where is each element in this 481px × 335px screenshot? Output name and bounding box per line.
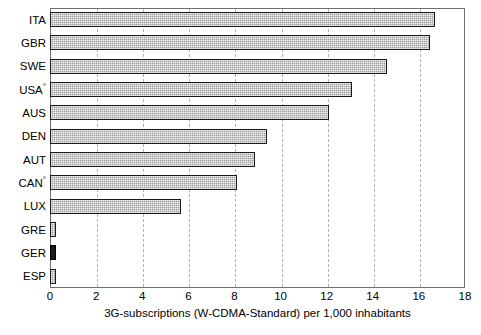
y-axis-label-esp: ESP: [0, 270, 46, 282]
bar-row: [50, 125, 465, 148]
bar-gbr: [50, 35, 430, 50]
x-tick-label-10: 10: [274, 290, 287, 303]
y-axis-label-aus: AUS: [0, 107, 46, 119]
bar-row: [50, 101, 465, 124]
bar-ger: [50, 245, 56, 260]
bar-row: [50, 55, 465, 78]
x-tick-label-0: 0: [47, 290, 53, 303]
bar-esp: [50, 269, 56, 284]
page-bottom-text-fragment: [14, 329, 314, 335]
y-axis-label-den: DEN: [0, 130, 46, 142]
x-tick-label-8: 8: [231, 290, 237, 303]
y-axis-label-gre: GRE: [0, 224, 46, 236]
x-tick-label-14: 14: [366, 290, 379, 303]
x-tick-label-4: 4: [139, 290, 145, 303]
bar-row: [50, 195, 465, 218]
chart-container: ITAGBRSWEUSA°AUSDENAUTCAN°LUXGREGERESP 0…: [0, 0, 481, 335]
bar-row: [50, 8, 465, 31]
y-axis-label-swe: SWE: [0, 60, 46, 72]
x-tick-label-12: 12: [320, 290, 333, 303]
bar-row: [50, 31, 465, 54]
x-tick-label-16: 16: [412, 290, 425, 303]
y-axis-label-ita: ITA: [0, 14, 46, 26]
bar-swe: [50, 59, 387, 74]
bar-row: [50, 218, 465, 241]
bar-row: [50, 241, 465, 264]
y-axis-label-ger: GER: [0, 247, 46, 259]
bar-row: [50, 78, 465, 101]
bar-ita: [50, 12, 435, 27]
bar-gre: [50, 222, 56, 237]
y-axis-label-gbr: GBR: [0, 37, 46, 49]
bars-group: [50, 8, 465, 288]
x-tick-label-18: 18: [459, 290, 472, 303]
y-axis-label-can: CAN°: [0, 177, 46, 189]
bar-lux: [50, 199, 181, 214]
bar-den: [50, 129, 267, 144]
y-axis-label-aut: AUT: [0, 154, 46, 166]
y-axis-category-labels: ITAGBRSWEUSA°AUSDENAUTCAN°LUXGREGERESP: [0, 8, 46, 288]
bar-aut: [50, 152, 255, 167]
bar-row: [50, 148, 465, 171]
x-axis-tick-labels: 024681012141618: [50, 290, 465, 306]
bar-row: [50, 171, 465, 194]
y-axis-label-usa: USA°: [0, 84, 46, 96]
x-axis-title: 3G-subscriptions (W-CDMA-Standard) per 1…: [50, 307, 465, 320]
bar-can: [50, 175, 237, 190]
x-tick-label-6: 6: [185, 290, 191, 303]
bar-usa: [50, 82, 352, 97]
y-axis-label-lux: LUX: [0, 200, 46, 212]
bar-row: [50, 265, 465, 288]
bar-aus: [50, 105, 329, 120]
x-tick-label-2: 2: [93, 290, 99, 303]
